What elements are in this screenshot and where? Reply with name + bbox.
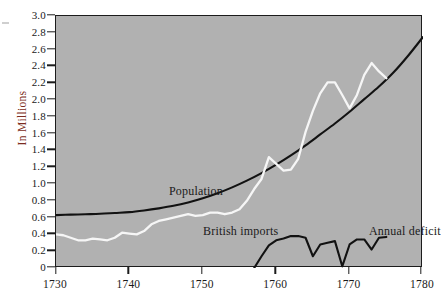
y-tick-mark	[47, 149, 55, 150]
y-tick-label: 0	[40, 262, 46, 273]
y-tick-label: 0.4	[32, 228, 46, 239]
y-tick-label: 0.6	[32, 211, 46, 222]
y-tick-mark	[47, 81, 55, 82]
series-annotation-annual-deficit: Annual deficit	[369, 224, 441, 239]
x-tick-label: 1760	[263, 278, 287, 290]
x-tick-mark	[201, 267, 202, 274]
x-tick-mark	[55, 267, 56, 274]
y-tick-mark	[47, 266, 55, 267]
y-tick-mark	[47, 65, 55, 66]
y-tick-mark	[47, 48, 55, 49]
series-annotation-british-imports: British imports	[203, 224, 278, 239]
plot-area: Population British imports Annual defici…	[55, 15, 422, 267]
y-axis-title: In Millions	[16, 68, 28, 168]
y-tick-label: 2.8	[32, 26, 46, 37]
x-tick-label: 1750	[190, 278, 214, 290]
x-axis: 173017401750176017701780	[55, 267, 422, 299]
series-line-annual-deficit	[254, 236, 386, 268]
x-tick-mark	[274, 267, 275, 274]
y-tick-label: 1.4	[32, 144, 46, 155]
series-line-population	[56, 37, 423, 215]
y-tick-mark	[47, 216, 55, 217]
y-axis: In Millions 00.20.40.60.81.01.21.41.61.8…	[0, 10, 55, 280]
y-tick-label: 1.6	[32, 127, 46, 138]
y-tick-label: 1.0	[32, 178, 46, 189]
y-tick-label: 2.0	[32, 94, 46, 105]
y-tick-mark	[47, 199, 55, 200]
y-tick-mark	[47, 31, 55, 32]
y-tick-label: 0.8	[32, 194, 46, 205]
x-tick-label: 1740	[116, 278, 140, 290]
y-tick-label: 2.4	[32, 60, 46, 71]
x-tick-label: 1730	[43, 278, 67, 290]
y-tick-label: 2.2	[32, 77, 46, 88]
y-tick-mark	[47, 182, 55, 183]
x-tick-label: 1780	[410, 278, 434, 290]
x-tick-label: 1770	[337, 278, 361, 290]
x-tick-mark	[128, 267, 129, 274]
x-tick-mark	[420, 267, 421, 274]
y-tick-label: 2.6	[32, 43, 46, 54]
y-tick-label: 1.8	[32, 110, 46, 121]
y-tick-label: 3.0	[32, 10, 46, 21]
y-tick-mark	[47, 115, 55, 116]
y-tick-label: 1.2	[32, 161, 46, 172]
y-tick-mark	[47, 249, 55, 250]
y-tick-label: 0.2	[32, 245, 46, 256]
x-tick-mark	[348, 267, 349, 274]
y-tick-mark	[47, 132, 55, 133]
y-tick-mark	[47, 98, 55, 99]
series-annotation-population: Population	[169, 184, 223, 199]
y-tick-mark	[47, 14, 55, 15]
y-tick-mark	[47, 165, 55, 166]
y-tick-mark	[47, 233, 55, 234]
